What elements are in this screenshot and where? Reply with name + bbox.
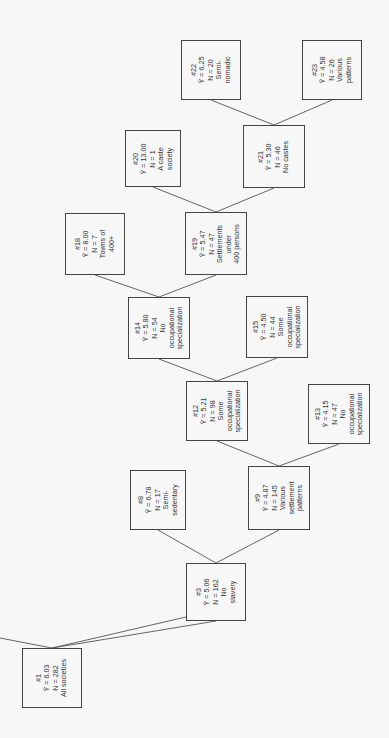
node-text: #14Ȳ = 5.80N = 54Nooccupationalspecializ… <box>134 306 184 349</box>
tree-edge <box>217 441 279 466</box>
node-description: All societies <box>60 659 68 697</box>
tree-edge <box>0 638 52 648</box>
node-description: sedentary <box>171 484 179 516</box>
node-description: society <box>166 143 174 174</box>
node-text: #15Ȳ = 4.50N = 44Someoccupationalspecial… <box>252 305 302 348</box>
node-description: specialization <box>176 306 184 349</box>
node-text: #13Ȳ = 4.15N = 47Nooccupationalspecializ… <box>314 392 364 435</box>
node-text: #19Ȳ = 5.47N = 47Settlementsunder400 per… <box>191 224 241 264</box>
tree-node-8: #8Ȳ = 6.78N = 17Semi-sedentary <box>130 470 186 530</box>
node-description: 400 persons <box>233 224 241 264</box>
tree-edge <box>158 530 216 563</box>
node-text: #22Ȳ = 6.25N = 20Semi-nomadic <box>190 56 232 83</box>
tree-edge <box>279 444 339 466</box>
node-text: #18Ȳ = 8.00N = 7Towns of400+ <box>74 230 116 258</box>
node-text: #1Ȳ = 6.03N = 282All societies <box>35 659 69 697</box>
tree-edges <box>0 0 389 738</box>
tree-edge <box>153 187 216 212</box>
tree-node-1: #1Ȳ = 6.03N = 282All societies <box>22 648 82 708</box>
node-description: 400+ <box>108 230 116 258</box>
tree-node-9: #9Ȳ = 4.87N = 145Varioussettlementpatter… <box>248 466 310 530</box>
tree-edge <box>159 275 216 297</box>
tree-edge <box>216 530 279 563</box>
node-text: #23Ȳ = 4.58N = 26Variouspatterns <box>311 57 353 84</box>
tree-edge <box>95 275 159 297</box>
node-text: #9Ȳ = 4.87N = 145Varioussettlementpatter… <box>254 481 304 514</box>
tree-edge <box>211 100 274 125</box>
tree-node-15: #15Ȳ = 4.50N = 44Someoccupationalspecial… <box>246 296 308 358</box>
node-description: specialization <box>294 305 302 348</box>
tree-node-20: #20Ȳ = 13.00N = 1A castesociety <box>125 130 181 187</box>
node-text: #3Ȳ = 5.06N = 162Noslavery <box>195 579 237 606</box>
tree-node-14: #14Ȳ = 5.80N = 54Nooccupationalspecializ… <box>128 297 190 359</box>
node-text: #21Ȳ = 5.30N = 46No castes <box>257 141 291 173</box>
tree-node-21: #21Ȳ = 5.30N = 46No castes <box>243 125 305 188</box>
tree-node-12: #12Ȳ = 5.21N = 98Someoccupationalspecial… <box>186 381 248 441</box>
node-text: #20Ȳ = 13.00N = 1A castesociety <box>132 143 174 174</box>
node-description: specialization <box>234 389 242 432</box>
node-text: #8Ȳ = 6.78N = 17Semi-sedentary <box>137 484 179 516</box>
tree-edge <box>159 359 217 381</box>
node-description: No castes <box>282 141 290 173</box>
node-text: #12Ȳ = 5.21N = 98Someoccupationalspecial… <box>192 389 242 432</box>
tree-node-13: #13Ȳ = 4.15N = 47Nooccupationalspecializ… <box>308 384 370 444</box>
tree-node-19: #19Ȳ = 5.47N = 47Settlementsunder400 per… <box>185 212 247 275</box>
tree-node-18: #18Ȳ = 8.00N = 7Towns of400+ <box>65 213 125 275</box>
tree-edge <box>217 358 277 381</box>
tree-edge <box>52 617 186 648</box>
node-description: patterns <box>345 57 353 84</box>
tree-node-23: #23Ȳ = 4.58N = 26Variouspatterns <box>302 40 362 100</box>
tree-edge <box>274 100 332 125</box>
node-description: patterns <box>296 481 304 514</box>
node-description: slavery <box>229 579 237 606</box>
tree-edge <box>216 188 274 212</box>
tree-node-22: #22Ȳ = 6.25N = 20Semi-nomadic <box>181 40 241 100</box>
tree-edge <box>52 621 216 648</box>
tree-node-3: #3Ȳ = 5.06N = 162Noslavery <box>186 563 246 621</box>
node-description: specialization <box>356 392 364 435</box>
node-description: nomadic <box>224 56 232 83</box>
